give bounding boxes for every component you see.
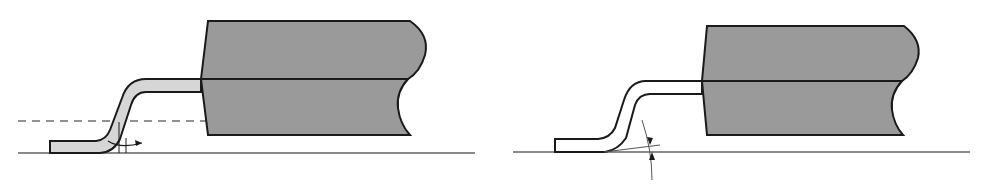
package-body-top xyxy=(201,21,426,79)
angle-arc xyxy=(642,120,652,180)
right-diagram-svg xyxy=(490,0,981,187)
figure-right-lead-angle xyxy=(490,0,981,187)
package-body-bottom xyxy=(201,79,410,135)
figure-left-coplanarity xyxy=(0,0,490,187)
left-diagram-svg xyxy=(0,0,490,187)
arrowhead-icon xyxy=(135,140,142,146)
package-body-bottom xyxy=(702,81,903,135)
gull-wing-lead xyxy=(555,81,702,152)
package-body-top xyxy=(702,26,919,81)
